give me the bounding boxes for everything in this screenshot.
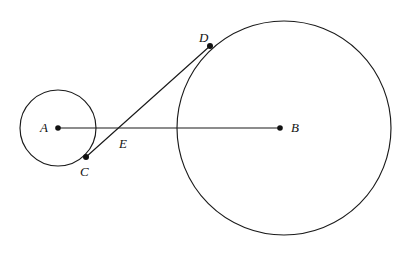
- point-label-d: D: [199, 31, 208, 44]
- point-label-b: B: [291, 121, 299, 134]
- point-label-e: E: [119, 137, 127, 150]
- point-dot-a: [55, 125, 61, 131]
- geometry-figure: A B C D E: [0, 0, 417, 254]
- figure-canvas: [0, 0, 417, 254]
- point-label-a: A: [40, 121, 48, 134]
- point-dot-b: [277, 125, 283, 131]
- point-dot-c: [83, 154, 89, 160]
- segment-cd: [86, 46, 210, 157]
- point-label-c: C: [80, 165, 89, 178]
